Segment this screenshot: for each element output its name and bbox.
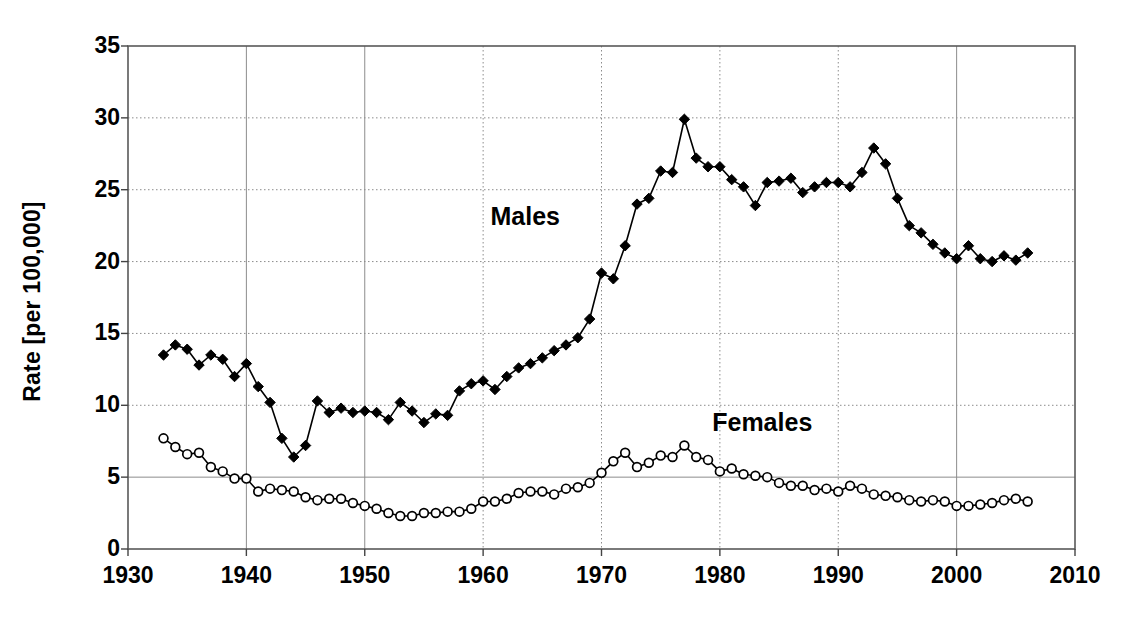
data-point-marker — [750, 200, 760, 210]
data-point-marker — [383, 414, 393, 424]
data-point-marker — [940, 497, 949, 506]
data-point-marker — [372, 504, 381, 513]
data-point-marker — [892, 193, 902, 203]
data-point-marker — [834, 487, 843, 496]
data-point-marker — [360, 406, 370, 416]
data-point-marker — [550, 490, 559, 499]
data-point-marker — [727, 464, 736, 473]
plot-area — [0, 0, 1144, 622]
data-point-marker — [858, 484, 867, 493]
data-point-marker — [467, 504, 476, 513]
data-point-marker — [348, 407, 358, 417]
data-point-marker — [881, 491, 890, 500]
data-point-marker — [632, 199, 642, 209]
data-point-marker — [466, 379, 476, 389]
data-point-marker — [809, 182, 819, 192]
data-point-marker — [277, 433, 287, 443]
data-point-marker — [325, 494, 334, 503]
data-point-marker — [798, 481, 807, 490]
data-point-marker — [336, 403, 346, 413]
data-point-marker — [431, 509, 440, 518]
data-point-marker — [929, 496, 938, 505]
data-point-marker — [242, 474, 251, 483]
data-point-marker — [491, 497, 500, 506]
data-point-marker — [454, 386, 464, 396]
data-point-marker — [822, 484, 831, 493]
data-point-marker — [774, 176, 784, 186]
data-point-marker — [525, 358, 535, 368]
data-point-marker — [371, 407, 381, 417]
data-point-marker — [656, 451, 665, 460]
data-point-marker — [218, 467, 227, 476]
data-point-marker — [420, 509, 429, 518]
data-point-marker — [655, 166, 665, 176]
data-point-marker — [762, 177, 772, 187]
data-point-marker — [478, 376, 488, 386]
data-point-marker — [751, 471, 760, 480]
data-point-marker — [633, 463, 642, 472]
data-point-marker — [667, 167, 677, 177]
data-point-marker — [987, 256, 997, 266]
data-point-marker — [502, 494, 511, 503]
data-point-marker — [479, 497, 488, 506]
data-point-marker — [396, 512, 405, 521]
data-point-marker — [289, 487, 298, 496]
data-point-marker — [976, 500, 985, 509]
data-point-marker — [692, 453, 701, 462]
data-point-marker — [668, 453, 677, 462]
data-point-marker — [763, 473, 772, 482]
data-point-marker — [526, 487, 535, 496]
data-point-marker — [337, 494, 346, 503]
chart-figure: Rate [per 100,000] 05101520253035 193019… — [0, 0, 1144, 622]
data-series-layer — [158, 114, 1033, 520]
data-point-marker — [538, 487, 547, 496]
data-point-marker — [833, 177, 843, 187]
data-point-marker — [549, 345, 559, 355]
data-point-marker — [514, 489, 523, 498]
data-point-marker — [821, 177, 831, 187]
data-point-marker — [442, 410, 452, 420]
data-point-marker — [679, 114, 689, 124]
data-point-marker — [620, 241, 630, 251]
data-point-marker — [775, 478, 784, 487]
data-point-marker — [254, 487, 263, 496]
data-point-marker — [917, 497, 926, 506]
data-point-marker — [266, 484, 275, 493]
data-point-marker — [596, 268, 606, 278]
data-point-marker — [171, 443, 180, 452]
data-point-marker — [573, 483, 582, 492]
data-point-marker — [360, 501, 369, 510]
data-point-marker — [349, 499, 358, 508]
data-point-marker — [384, 509, 393, 518]
data-point-marker — [846, 481, 855, 490]
data-point-marker — [715, 467, 724, 476]
series-line — [164, 119, 1028, 457]
data-point-marker — [704, 455, 713, 464]
data-point-marker — [621, 448, 630, 457]
data-point-marker — [230, 474, 239, 483]
series-label-females: Females — [712, 408, 812, 437]
data-point-marker — [562, 484, 571, 493]
data-point-marker — [893, 493, 902, 502]
data-point-marker — [739, 470, 748, 479]
data-point-marker — [301, 493, 310, 502]
data-point-marker — [537, 353, 547, 363]
data-point-marker — [609, 457, 618, 466]
data-point-marker — [183, 450, 192, 459]
data-point-marker — [1011, 255, 1021, 265]
data-point-marker — [573, 333, 583, 343]
data-point-marker — [1011, 494, 1020, 503]
data-point-marker — [904, 220, 914, 230]
data-point-marker — [988, 499, 997, 508]
data-point-marker — [1022, 248, 1032, 258]
data-point-marker — [608, 274, 618, 284]
data-point-marker — [218, 354, 228, 364]
data-point-marker — [195, 448, 204, 457]
data-point-marker — [159, 434, 168, 443]
data-point-marker — [277, 486, 286, 495]
data-point-marker — [597, 468, 606, 477]
data-point-marker — [952, 501, 961, 510]
data-point-marker — [561, 340, 571, 350]
data-point-marker — [206, 463, 215, 472]
data-point-marker — [408, 512, 417, 521]
